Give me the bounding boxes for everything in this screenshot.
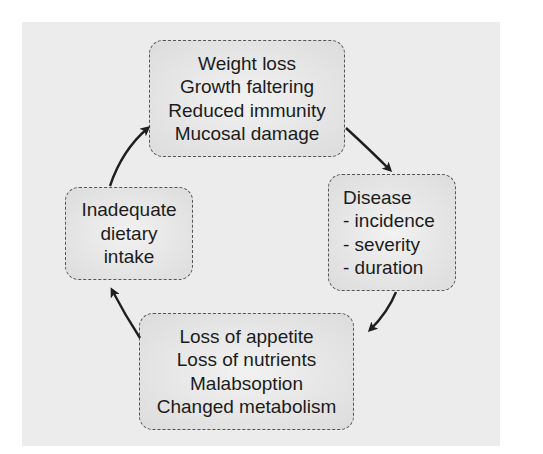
arrow-top-to-right-icon bbox=[346, 128, 390, 170]
arrow-right-to-bottom-icon bbox=[370, 292, 396, 330]
arrow-left-to-top-icon bbox=[110, 128, 148, 186]
cycle-arrows bbox=[0, 0, 543, 454]
arrow-bottom-to-left-icon bbox=[112, 290, 140, 338]
